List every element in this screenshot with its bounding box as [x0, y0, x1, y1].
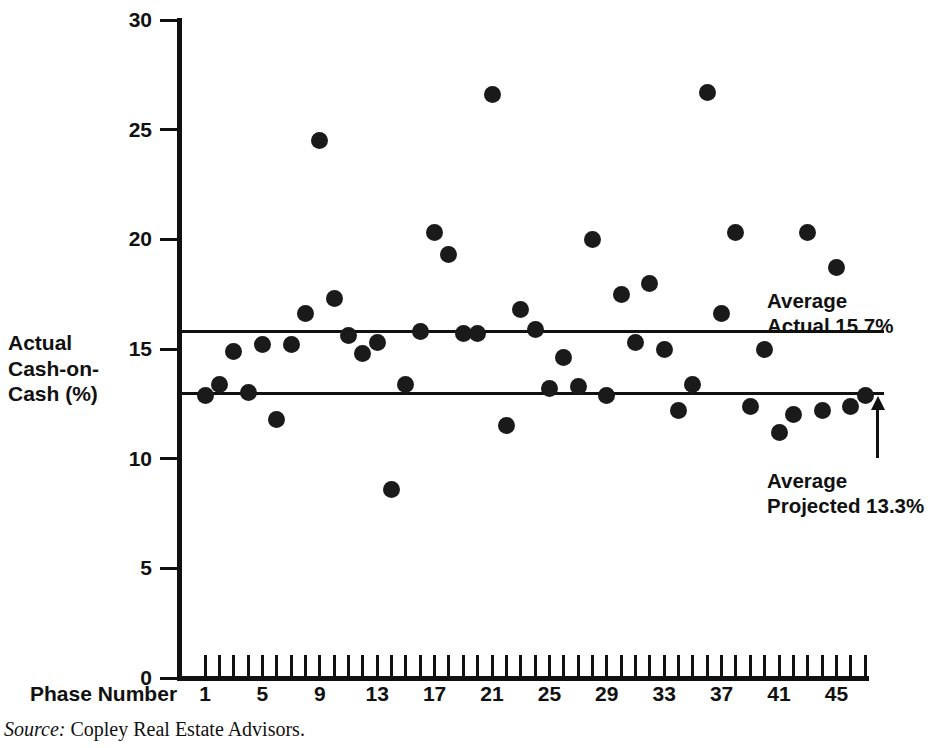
x-tick-20: [476, 655, 479, 677]
x-tick-17: [433, 655, 436, 677]
scatter-point: [311, 132, 328, 149]
x-tick-14: [390, 655, 393, 677]
annotation-average-projected: Average Projected 13.3%: [767, 468, 924, 518]
x-tick-18: [447, 655, 450, 677]
x-tick-42: [792, 655, 795, 677]
scatter-point: [756, 341, 773, 358]
x-tick-6: [275, 655, 278, 677]
source-note: Source:Copley Real Estate Advisors.: [4, 718, 305, 740]
scatter-point: [383, 481, 400, 498]
x-tick-36: [706, 655, 709, 677]
x-tick-3: [232, 655, 235, 677]
projected-arrow-shaft: [876, 409, 879, 458]
y-tick-label-5: 5: [110, 557, 152, 578]
y-tick-label-30: 30: [110, 9, 152, 30]
x-tick-label-37: 37: [710, 683, 733, 704]
source-text: Copley Real Estate Advisors.: [70, 718, 304, 740]
scatter-point: [397, 376, 414, 393]
x-axis-title: Phase Number: [30, 683, 177, 704]
x-tick-10: [333, 655, 336, 677]
scatter-point: [842, 398, 859, 415]
scatter-point: [771, 424, 788, 441]
scatter-point: [484, 86, 501, 103]
x-tick-label-5: 5: [257, 683, 269, 704]
scatter-point: [283, 336, 300, 353]
y-tick-label-20: 20: [110, 228, 152, 249]
y-tick-25: [160, 128, 182, 131]
y-tick-label-15: 15: [110, 338, 152, 359]
scatter-point: [742, 398, 759, 415]
x-tick-38: [734, 655, 737, 677]
scatter-point: [541, 380, 558, 397]
scatter-point: [641, 275, 658, 292]
scatter-point: [814, 402, 831, 419]
x-tick-19: [462, 655, 465, 677]
x-tick-8: [304, 655, 307, 677]
scatter-point: [268, 411, 285, 428]
x-tick-13: [376, 655, 379, 677]
scatter-point: [713, 305, 730, 322]
y-tick-0: [160, 677, 182, 680]
x-tick-29: [605, 655, 608, 677]
y-tick-10: [160, 457, 182, 460]
x-tick-21: [491, 655, 494, 677]
scatter-point: [828, 259, 845, 276]
scatter-point: [426, 224, 443, 241]
scatter-point: [613, 286, 630, 303]
scatter-point: [555, 349, 572, 366]
x-tick-7: [290, 655, 293, 677]
scatter-point: [469, 325, 486, 342]
x-tick-5: [261, 655, 264, 677]
scatter-point: [670, 402, 687, 419]
x-tick-26: [562, 655, 565, 677]
x-tick-23: [519, 655, 522, 677]
y-tick-label-25: 25: [110, 119, 152, 140]
scatter-point: [785, 406, 802, 423]
scatter-point: [197, 387, 214, 404]
x-tick-45: [835, 655, 838, 677]
x-tick-11: [347, 655, 350, 677]
reference-line-average-projected: [182, 392, 884, 395]
x-tick-2: [218, 655, 221, 677]
scatter-point: [727, 224, 744, 241]
x-tick-label-33: 33: [653, 683, 676, 704]
annotation-average-actual: Average Actual 15.7%: [767, 288, 893, 338]
x-tick-label-13: 13: [366, 683, 389, 704]
x-tick-label-25: 25: [538, 683, 561, 704]
x-tick-24: [534, 655, 537, 677]
x-tick-44: [821, 655, 824, 677]
scatter-point: [656, 341, 673, 358]
x-tick-label-45: 45: [825, 683, 848, 704]
scatter-point: [512, 301, 529, 318]
x-tick-41: [778, 655, 781, 677]
y-axis-title: Actual Cash-on- Cash (%): [8, 330, 99, 407]
x-tick-9: [318, 655, 321, 677]
x-tick-label-21: 21: [480, 683, 503, 704]
x-tick-35: [691, 655, 694, 677]
x-tick-40: [763, 655, 766, 677]
x-tick-15: [404, 655, 407, 677]
x-tick-28: [591, 655, 594, 677]
x-tick-16: [419, 655, 422, 677]
scatter-point: [699, 84, 716, 101]
x-tick-30: [620, 655, 623, 677]
scatter-point: [340, 327, 357, 344]
x-tick-37: [720, 655, 723, 677]
x-tick-33: [663, 655, 666, 677]
x-tick-31: [634, 655, 637, 677]
x-tick-39: [749, 655, 752, 677]
x-tick-label-17: 17: [423, 683, 446, 704]
x-tick-12: [361, 655, 364, 677]
x-tick-47: [864, 655, 867, 677]
scatter-point: [297, 305, 314, 322]
scatter-point: [527, 321, 544, 338]
x-tick-1: [204, 655, 207, 677]
scatter-point: [254, 336, 271, 353]
scatter-point: [684, 376, 701, 393]
x-tick-43: [806, 655, 809, 677]
x-tick-46: [849, 655, 852, 677]
x-tick-32: [648, 655, 651, 677]
scatter-point: [627, 334, 644, 351]
scatter-point: [440, 246, 457, 263]
y-tick-15: [160, 348, 182, 351]
